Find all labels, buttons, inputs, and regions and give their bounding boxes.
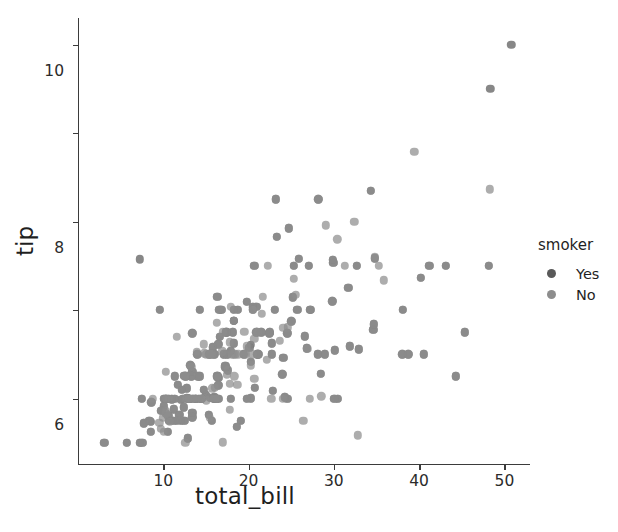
y-tick-mark: 2 bbox=[73, 399, 78, 400]
scatter-point bbox=[259, 293, 267, 301]
legend: smoker YesNo bbox=[538, 236, 616, 305]
scatter-point bbox=[233, 381, 241, 389]
scatter-point bbox=[398, 306, 406, 314]
scatter-point bbox=[304, 262, 312, 270]
scatter-point bbox=[486, 85, 494, 93]
scatter-point bbox=[140, 419, 148, 427]
scatter-point bbox=[316, 370, 324, 378]
legend-item[interactable]: Yes bbox=[538, 263, 616, 284]
y-tick-label: 10 bbox=[44, 62, 64, 80]
legend-item-label: No bbox=[576, 287, 596, 303]
x-tick-mark bbox=[334, 465, 335, 470]
scatter-point bbox=[299, 417, 307, 425]
y-tick-mark: 8 bbox=[73, 133, 78, 134]
scatter-point bbox=[251, 384, 259, 392]
scatter-point bbox=[181, 439, 189, 447]
y-axis-label: tip bbox=[8, 0, 42, 482]
scatter-point bbox=[229, 317, 237, 325]
scatter-point bbox=[345, 342, 353, 350]
axis-spine-bottom bbox=[78, 464, 530, 465]
scatter-point bbox=[331, 346, 339, 354]
scatter-point bbox=[162, 368, 170, 376]
scatter-point bbox=[287, 317, 295, 325]
scatter-point bbox=[173, 333, 181, 341]
plot-area: 246810 1020304050 bbox=[78, 18, 530, 465]
x-axis-label-text: total_bill bbox=[195, 483, 295, 509]
legend-entries: YesNo bbox=[538, 263, 616, 305]
scatter-point bbox=[425, 262, 433, 270]
legend-item-label: Yes bbox=[576, 266, 599, 282]
scatter-point bbox=[289, 274, 297, 282]
y-tick-mark: 4 bbox=[73, 310, 78, 311]
scatter-point bbox=[187, 372, 195, 380]
scatter-point bbox=[340, 262, 348, 270]
scatter-point bbox=[416, 274, 424, 282]
scatter-point bbox=[226, 394, 234, 402]
y-tick-mark: 10 bbox=[73, 45, 78, 46]
scatter-point bbox=[188, 413, 196, 421]
scatter-point bbox=[306, 394, 314, 402]
scatter-point bbox=[279, 354, 287, 362]
scatter-point bbox=[136, 255, 144, 263]
scatter-point bbox=[379, 276, 387, 284]
scatter-point bbox=[289, 262, 297, 270]
scatter-point bbox=[213, 319, 221, 327]
scatter-point bbox=[268, 339, 276, 347]
scatter-point bbox=[178, 386, 186, 394]
scatter-point bbox=[314, 350, 322, 358]
scatter-point bbox=[328, 297, 336, 305]
y-tick-label: 8 bbox=[54, 239, 64, 257]
scatter-point bbox=[233, 306, 241, 314]
scatter-point bbox=[293, 306, 301, 314]
x-tick-mark bbox=[419, 465, 420, 470]
scatter-point bbox=[250, 374, 258, 382]
scatter-point bbox=[420, 350, 428, 358]
scatter-point bbox=[485, 262, 493, 270]
y-axis-label-text: tip bbox=[12, 226, 38, 256]
scatter-point bbox=[321, 350, 329, 358]
scatter-point bbox=[230, 339, 238, 347]
scatter-point bbox=[273, 233, 281, 241]
scatter-point bbox=[267, 394, 275, 402]
scatter-point bbox=[507, 40, 515, 48]
scatter-point bbox=[306, 306, 314, 314]
scatter-point bbox=[271, 195, 279, 203]
scatter-point bbox=[461, 328, 469, 336]
scatter-point bbox=[441, 262, 449, 270]
scatter-point bbox=[366, 186, 374, 194]
scatter-point bbox=[321, 221, 329, 229]
scatter-point bbox=[213, 293, 221, 301]
scatter-point bbox=[354, 345, 362, 353]
scatter-point bbox=[354, 431, 362, 439]
scatter-point bbox=[278, 370, 286, 378]
scatter-point bbox=[276, 336, 284, 344]
scatter-point bbox=[226, 405, 234, 413]
scatter-point bbox=[410, 147, 418, 155]
legend-title: smoker bbox=[538, 236, 616, 254]
x-tick-mark bbox=[249, 465, 250, 470]
scatter-point bbox=[166, 418, 174, 426]
y-tick-label: 6 bbox=[54, 416, 64, 434]
scatter-point bbox=[485, 185, 493, 193]
scatter-point bbox=[333, 235, 341, 243]
scatter-point bbox=[188, 329, 196, 337]
scatter-point bbox=[123, 439, 131, 447]
scatter-point bbox=[314, 195, 322, 203]
scatter-point bbox=[265, 329, 273, 337]
scatter-point bbox=[196, 306, 204, 314]
scatter-point bbox=[350, 217, 358, 225]
scatter-plot-figure: tip 246810 1020304050 total_bill smoker … bbox=[0, 0, 618, 532]
scatter-point bbox=[249, 306, 257, 314]
legend-item[interactable]: No bbox=[538, 284, 616, 305]
scatter-point bbox=[344, 284, 352, 292]
scatter-point bbox=[138, 394, 146, 402]
scatter-point bbox=[146, 428, 154, 436]
axis-spine-left bbox=[78, 18, 79, 465]
x-axis-label: total_bill bbox=[0, 483, 618, 509]
scatter-point bbox=[233, 423, 241, 431]
scatter-point bbox=[138, 439, 146, 447]
scatter-point bbox=[295, 255, 303, 263]
scatter-point bbox=[263, 262, 271, 270]
scatter-point bbox=[452, 372, 460, 380]
scatter-point bbox=[208, 417, 216, 425]
